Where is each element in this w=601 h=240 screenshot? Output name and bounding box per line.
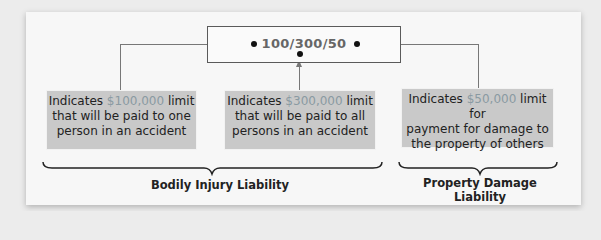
amount-100000: $100,000 (107, 94, 164, 108)
box-bodily-per-accident: Indicates $300,000 limit that will be pa… (224, 90, 376, 150)
brace-bodily-icon (40, 160, 385, 176)
right-connector-vertical (478, 44, 479, 91)
dot-bottom-icon (297, 51, 303, 57)
coverage-code: 100/300/50 (208, 36, 400, 51)
label-property-damage: Property Damage Liability (400, 176, 560, 204)
dot-left-icon (251, 41, 257, 47)
box-bodily-per-person: Indicates $100,000 limit that will be pa… (46, 90, 197, 150)
brace-property-icon (396, 160, 561, 176)
amount-300000: $300,000 (285, 94, 342, 108)
amount-50000: $50,000 (467, 92, 517, 106)
box-property-damage: Indicates $50,000 limit for payment for … (401, 88, 554, 148)
left-connector-vertical (120, 44, 121, 91)
dot-right-icon (354, 41, 360, 47)
coverage-code-box: 100/300/50 (207, 26, 401, 63)
label-bodily-injury: Bodily Injury Liability (140, 178, 300, 192)
